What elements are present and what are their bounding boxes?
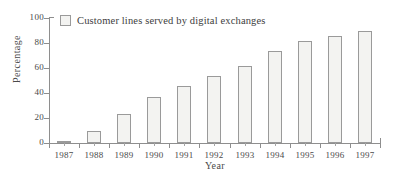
x-axis-tick	[350, 143, 351, 148]
x-axis-minor-tick	[214, 143, 215, 146]
bar	[238, 66, 252, 144]
x-axis-tick	[109, 143, 110, 148]
x-axis-tick	[169, 143, 170, 148]
y-axis-tick-label: 80	[4, 38, 44, 47]
x-axis-minor-tick	[154, 143, 155, 146]
x-axis-tick-label: 1997	[345, 150, 385, 160]
x-axis-minor-tick	[275, 143, 276, 146]
bar	[268, 51, 282, 144]
bar	[328, 36, 342, 143]
x-axis-tick	[199, 143, 200, 148]
bar	[57, 141, 71, 143]
x-axis-tick	[290, 143, 291, 148]
x-axis-minor-tick	[335, 143, 336, 146]
bar	[117, 114, 131, 143]
x-axis-tick	[320, 143, 321, 148]
x-axis-minor-tick	[305, 143, 306, 146]
bar	[147, 97, 161, 143]
bar	[298, 41, 312, 143]
bar-chart-figure: Customer lines served by digital exchang…	[0, 0, 396, 176]
x-axis-tick	[49, 143, 50, 148]
bar	[207, 76, 221, 143]
x-axis-tick	[79, 143, 80, 148]
plot-area	[49, 18, 380, 143]
x-axis-minor-tick	[245, 143, 246, 146]
bar	[177, 86, 191, 143]
x-axis-minor-tick	[124, 143, 125, 146]
bar	[87, 131, 101, 143]
x-axis-tick	[260, 143, 261, 148]
x-axis-tick	[139, 143, 140, 148]
bar	[358, 31, 372, 144]
y-axis-tick-label: 100	[4, 13, 44, 22]
y-axis-tick-label: 40	[4, 88, 44, 97]
y-axis-title: Percentage	[12, 14, 22, 104]
x-axis-minor-tick	[184, 143, 185, 146]
x-axis-minor-tick	[365, 143, 366, 146]
y-axis-tick-label: 60	[4, 63, 44, 72]
x-axis-line	[49, 143, 381, 144]
x-axis-tick	[230, 143, 231, 148]
x-axis-minor-tick	[94, 143, 95, 146]
x-axis-title: Year	[49, 161, 381, 171]
y-axis-tick-label: 0	[4, 138, 44, 147]
x-axis-tick	[380, 143, 381, 148]
y-axis-tick-label: 20	[4, 113, 44, 122]
x-axis-minor-tick	[64, 143, 65, 146]
